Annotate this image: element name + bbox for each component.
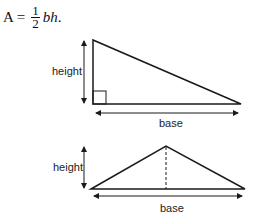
isosceles-triangle [91, 146, 245, 189]
height-label: height [52, 65, 82, 77]
right-triangle-figure: height base [52, 40, 241, 129]
right-triangle [93, 40, 241, 104]
right-angle-marker [93, 91, 106, 104]
triangle-diagrams: height base height base [0, 0, 255, 224]
height-label: height [53, 161, 83, 173]
base-label: base [159, 117, 183, 129]
isosceles-triangle-figure: height base [53, 146, 245, 214]
base-label: base [160, 202, 184, 214]
